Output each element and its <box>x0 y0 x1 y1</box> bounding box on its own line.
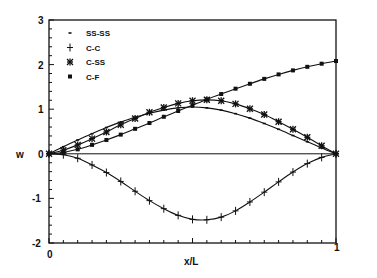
square-marker <box>205 97 209 101</box>
square-marker <box>119 133 123 137</box>
square-marker <box>61 150 65 154</box>
square-marker <box>47 152 51 156</box>
y-tick-label-neg2: -2 <box>32 238 41 249</box>
x-axis-label: x/L <box>184 256 198 267</box>
y-axis-label: w <box>15 149 24 160</box>
legend-label-c-ss: C-SS <box>86 58 106 67</box>
square-marker <box>291 68 295 72</box>
square-marker <box>219 92 223 96</box>
legend-label-c-f: C-F <box>86 73 99 82</box>
y-tick-label-neg1: -1 <box>32 193 41 204</box>
y-tick-label-3: 3 <box>38 15 44 26</box>
square-marker <box>76 147 80 151</box>
chart: SS-SSC-CC-SSC-F w x/L 0 1 3 2 1 0 -1 -2 <box>0 0 377 278</box>
square-marker <box>334 59 338 63</box>
y-tick-label-0: 0 <box>38 149 44 160</box>
square-marker <box>234 87 238 91</box>
y-tick-label-2: 2 <box>38 60 44 71</box>
chart-background <box>0 0 377 278</box>
x-tick-label-0: 0 <box>47 249 53 260</box>
y-tick-label-1: 1 <box>38 104 44 115</box>
square-marker <box>104 138 108 142</box>
square-marker <box>277 72 281 76</box>
legend-label-ss-ss: SS-SS <box>86 29 111 38</box>
square-marker <box>90 143 94 147</box>
legend-label-c-c: C-C <box>86 44 100 53</box>
square-marker <box>191 103 195 107</box>
square-marker <box>248 82 252 86</box>
square-marker <box>162 115 166 119</box>
square-marker <box>262 77 266 81</box>
square-icon <box>68 75 72 79</box>
square-marker <box>176 109 180 113</box>
square-marker <box>147 121 151 125</box>
square-marker <box>133 127 137 131</box>
square-marker <box>305 65 309 69</box>
x-tick-label-1: 1 <box>334 242 340 253</box>
square-marker <box>320 62 324 66</box>
